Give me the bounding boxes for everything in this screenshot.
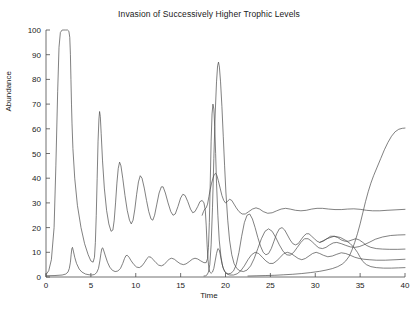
svg-text:0: 0 [37, 273, 42, 282]
svg-text:90: 90 [32, 51, 41, 60]
plot-area: 01020304050607080901000510152025303540 [0, 0, 418, 309]
series-line-0 [46, 30, 405, 275]
svg-text:50: 50 [32, 150, 41, 159]
series-line-2 [204, 62, 405, 276]
svg-text:40: 40 [32, 174, 41, 183]
svg-text:10: 10 [131, 281, 140, 290]
series-line-4 [248, 128, 405, 276]
svg-text:20: 20 [221, 281, 230, 290]
svg-text:35: 35 [356, 281, 365, 290]
svg-text:40: 40 [401, 281, 410, 290]
svg-text:60: 60 [32, 125, 41, 134]
svg-text:70: 70 [32, 100, 41, 109]
svg-text:100: 100 [28, 26, 42, 35]
svg-text:30: 30 [311, 281, 320, 290]
svg-text:30: 30 [32, 199, 41, 208]
data-series [46, 30, 405, 276]
svg-text:80: 80 [32, 75, 41, 84]
chart-figure: Invasion of Successively Higher Trophic … [0, 0, 418, 309]
svg-text:10: 10 [32, 248, 41, 257]
svg-text:20: 20 [32, 224, 41, 233]
svg-text:15: 15 [176, 281, 185, 290]
svg-text:25: 25 [266, 281, 275, 290]
svg-text:0: 0 [44, 281, 49, 290]
series-line-5 [320, 236, 405, 268]
series-line-3 [202, 173, 405, 215]
svg-text:5: 5 [89, 281, 94, 290]
